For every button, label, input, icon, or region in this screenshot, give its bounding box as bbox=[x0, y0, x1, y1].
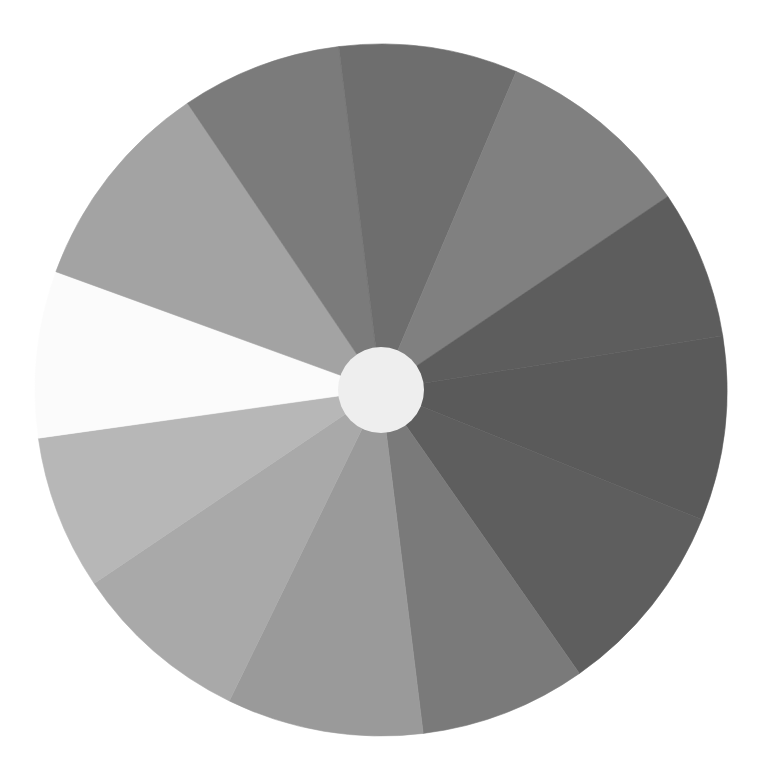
color-wheel bbox=[0, 0, 757, 766]
wheel-hub bbox=[338, 347, 424, 433]
